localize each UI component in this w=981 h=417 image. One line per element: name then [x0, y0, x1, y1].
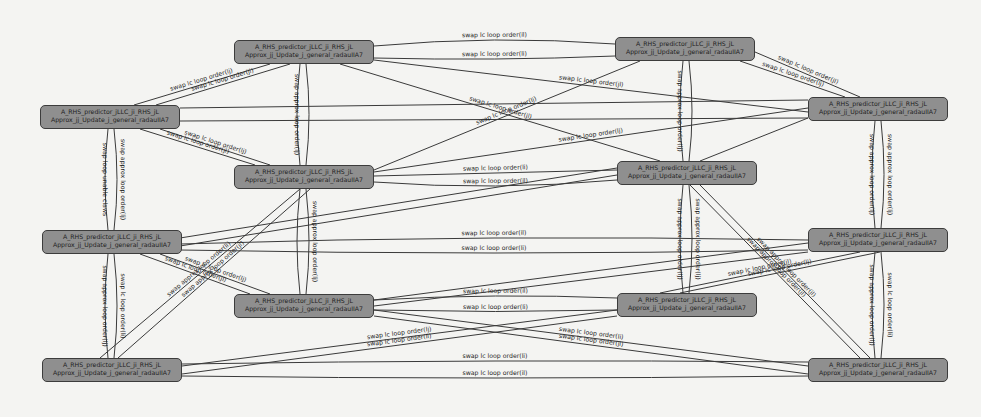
vertical-edge-label: swap approx loop order(lj) [694, 198, 702, 279]
vertical-edge-label: swap approx loop order(lj) [119, 139, 127, 220]
edge-label: swap lc loop order(li) [462, 352, 527, 360]
node-label-line1: A_RHS_predictor_jLLC_ji_RHS_jL [812, 100, 944, 108]
node-label-line2: Approx_jj_Update_j_general_radauIIA7 [621, 304, 753, 312]
node-label-line2: Approx_jj_Update_j_general_radauIIA7 [44, 116, 176, 124]
node-label-line2: Approx_jj_Update_j_general_radauIIA7 [238, 51, 370, 59]
node-label-line1: A_RHS_predictor_jLLC_ji_RHS_jL [621, 164, 753, 172]
node-label-line2: Approx_jj_Update_j_general_radauIIA7 [621, 172, 753, 180]
graph-canvas: swap lc loop order(il)swap lc loop order… [0, 0, 981, 417]
node-label-line1: A_RHS_predictor_jLLC_ji_RHS_jL [812, 231, 944, 239]
edge-label: swap lc loop order(il) [462, 369, 527, 377]
node-label-line1: A_RHS_predictor_jLLC_ji_RHS_jL [619, 40, 751, 48]
edge-38[interactable] [690, 185, 860, 358]
edge-label: swap lc loop order(li) [463, 303, 528, 311]
edge-layer: swap lc loop order(il)swap lc loop order… [0, 0, 981, 417]
graph-node-n0[interactable]: A_RHS_predictor_jLLC_ji_RHS_jL Approx_jj… [234, 40, 374, 64]
edge-label: swap lc loop order(li) [463, 163, 528, 173]
vertical-edge-label: swap lc loop order(li) [119, 273, 127, 338]
vertical-edge-9[interactable] [689, 61, 692, 161]
vertical-edge-label: swap approx loop order(lj) [676, 70, 684, 151]
graph-node-n3[interactable]: A_RHS_predictor_jLLC_ji_RHS_jL Approx_jj… [808, 97, 948, 121]
edge-9[interactable] [374, 61, 640, 170]
node-label-line2: Approx_jj_Update_j_general_radauIIA7 [238, 305, 370, 313]
edge-label: swap lc loop order(li) [462, 50, 527, 59]
edge-label: swap lc loop order(il) [461, 229, 526, 237]
graph-node-n5[interactable]: A_RHS_predictor_jLLC_ji_RHS_jL Approx_jj… [617, 161, 757, 185]
node-label-line2: Approx_jj_Update_j_general_radauIIA7 [812, 239, 944, 247]
vertical-edge-label: swap approx loop order(lj) [101, 265, 109, 346]
vertical-edge-1[interactable] [114, 129, 117, 230]
node-label-line1: A_RHS_predictor_jLLC_ji_RHS_jL [46, 361, 178, 369]
edge-35[interactable] [100, 189, 300, 358]
vertical-edge-label: swap lc loop order(li) [886, 272, 894, 337]
edge-label: swap lc loop order(lj) [558, 126, 623, 143]
vertical-edge-15[interactable] [881, 252, 884, 358]
node-label-line2: Approx_jj_Update_j_general_radauIIA7 [812, 108, 944, 116]
vertical-edge-3[interactable] [114, 254, 117, 358]
vertical-edge-label: swap loop unable claws [101, 143, 109, 216]
vertical-edge-6[interactable] [297, 189, 300, 294]
vertical-edge-label: swap approx loop order(lj) [676, 198, 684, 279]
node-label-line2: Approx_jj_Update_j_general_radauIIA7 [619, 48, 751, 56]
edge-label: swap lc loop order(il) [462, 31, 527, 40]
graph-node-n2[interactable]: A_RHS_predictor_jLLC_ji_RHS_jL Approx_jj… [40, 105, 180, 129]
node-label-line2: Approx_jj_Update_j_general_radauIIA7 [46, 369, 178, 377]
graph-node-n11[interactable]: A_RHS_predictor_jLLC_ji_RHS_jL Approx_jj… [808, 358, 948, 382]
graph-node-n10[interactable]: A_RHS_predictor_jLLC_ji_RHS_jL Approx_jj… [42, 358, 182, 382]
edge-36[interactable] [118, 189, 310, 358]
edge-30[interactable] [374, 316, 808, 374]
node-label-line2: Approx_jj_Update_j_general_radauIIA7 [812, 369, 944, 377]
edge-label: swap lc loop order(li) [461, 244, 526, 252]
vertical-edge-label: swap approx loop order(lj) [311, 201, 319, 282]
edge-16[interactable] [700, 118, 808, 161]
graph-node-n4[interactable]: A_RHS_predictor_jLLC_ji_RHS_jL Approx_jj… [234, 165, 374, 189]
graph-node-n9[interactable]: A_RHS_predictor_jLLC_ji_RHS_jL Approx_jj… [617, 293, 757, 317]
edge-0[interactable] [374, 40, 615, 46]
vertical-edge-label: swap approx loop order(lj) [868, 134, 876, 215]
node-label-line1: A_RHS_predictor_jLLC_ji_RHS_jL [44, 108, 176, 116]
edge-23[interactable] [374, 296, 617, 300]
node-label-line2: Approx_jj_Update_j_general_radauIIA7 [46, 241, 178, 249]
node-label-line1: A_RHS_predictor_jLLC_ji_RHS_jL [46, 233, 178, 241]
node-label-line1: A_RHS_predictor_jLLC_ji_RHS_jL [621, 296, 753, 304]
vertical-edge-label: swap approx loop order(lj) [293, 74, 301, 155]
node-label-line1: A_RHS_predictor_jLLC_ji_RHS_jL [238, 297, 370, 305]
vertical-edge-11[interactable] [689, 185, 692, 293]
vertical-edge-5[interactable] [306, 64, 309, 165]
vertical-edge-13[interactable] [881, 121, 884, 228]
node-label-line1: A_RHS_predictor_jLLC_ji_RHS_jL [238, 168, 370, 176]
graph-node-n8[interactable]: A_RHS_predictor_jLLC_ji_RHS_jL Approx_jj… [234, 294, 374, 318]
edge-34[interactable] [182, 376, 808, 378]
node-label-line2: Approx_jj_Update_j_general_radauIIA7 [238, 176, 370, 184]
graph-node-n1[interactable]: A_RHS_predictor_jLLC_ji_RHS_jL Approx_jj… [615, 37, 755, 61]
edge-32[interactable] [182, 316, 617, 374]
vertical-edge-label: swap approx loop order(lj) [868, 264, 876, 345]
node-label-line1: A_RHS_predictor_jLLC_ji_RHS_jL [238, 43, 370, 51]
vertical-edge-7[interactable] [306, 189, 309, 294]
graph-node-n6[interactable]: A_RHS_predictor_jLLC_ji_RHS_jL Approx_jj… [42, 230, 182, 254]
edge-24[interactable] [374, 310, 617, 312]
node-label-line1: A_RHS_predictor_jLLC_ji_RHS_jL [812, 361, 944, 369]
vertical-edge-label: swap approx loop order(lj) [886, 134, 894, 215]
graph-node-n7[interactable]: A_RHS_predictor_jLLC_ji_RHS_jL Approx_jj… [808, 228, 948, 252]
